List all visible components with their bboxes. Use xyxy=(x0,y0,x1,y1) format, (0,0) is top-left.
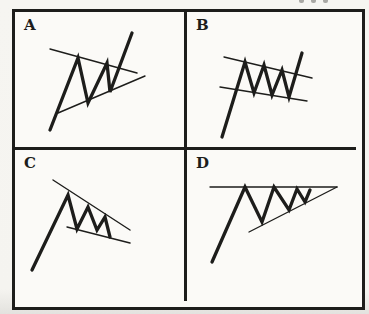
bull-flag-breakout-figure xyxy=(187,12,356,147)
falling-wedge-figure xyxy=(15,150,184,301)
panel-C: C xyxy=(15,150,187,301)
panel-D: D xyxy=(187,150,356,301)
panel-B: B xyxy=(187,12,356,150)
price-path xyxy=(50,33,132,130)
chart-pattern-grid: A B C D xyxy=(12,9,365,310)
artifact-mark xyxy=(311,0,316,3)
panel-B-label: B xyxy=(196,16,209,34)
price-path xyxy=(212,187,310,262)
scanned-figure-page: A B C D xyxy=(0,0,369,314)
panel-C-label: C xyxy=(24,154,36,172)
artifact-mark xyxy=(299,0,304,3)
lower-trendline xyxy=(58,76,145,113)
price-path xyxy=(32,195,110,270)
lower-trendline xyxy=(249,187,337,232)
ascending-triangle-figure xyxy=(187,150,356,301)
panel-D-label: D xyxy=(196,154,209,172)
panel-A-label: A xyxy=(24,16,36,34)
panel-A: A xyxy=(15,12,187,150)
artifact-mark xyxy=(323,0,328,3)
bull-pennant-breakout-figure xyxy=(15,12,184,147)
cropped-print-artifact xyxy=(299,0,328,4)
